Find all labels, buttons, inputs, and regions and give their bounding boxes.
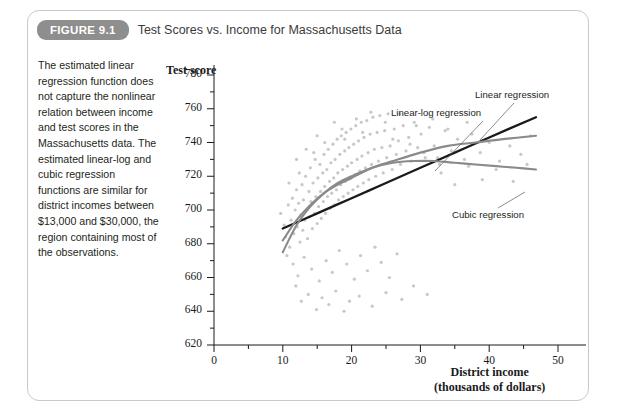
data-point — [410, 159, 413, 162]
leader-line-linear-log-regression — [435, 121, 483, 171]
data-point — [279, 212, 282, 215]
data-point — [400, 298, 403, 301]
data-point — [349, 176, 352, 179]
data-point — [343, 149, 346, 152]
data-point — [344, 180, 347, 183]
data-point — [303, 219, 306, 222]
data-point — [331, 143, 334, 146]
data-point — [498, 159, 501, 162]
data-point — [389, 144, 392, 147]
data-point — [384, 291, 387, 294]
data-point — [408, 143, 411, 146]
data-point — [333, 158, 336, 161]
data-point — [294, 208, 297, 211]
figure-frame: FIGURE 9.1 Test Scores vs. Income for Ma… — [27, 10, 589, 401]
data-point — [314, 195, 317, 198]
data-point — [300, 300, 303, 303]
data-point — [393, 127, 396, 130]
data-point — [426, 293, 429, 296]
data-point — [283, 224, 286, 227]
data-point — [422, 151, 425, 154]
data-point — [284, 235, 287, 238]
x-tick-label: 0 — [194, 354, 234, 366]
data-point — [370, 163, 373, 166]
y-tick-label: 620 — [162, 337, 202, 349]
data-point — [330, 192, 333, 195]
data-point — [361, 131, 364, 134]
data-point — [391, 138, 394, 141]
data-point — [373, 246, 376, 249]
data-point — [312, 151, 315, 154]
leader-line-linear-regression — [480, 103, 514, 140]
curve-linear-log-regression — [283, 136, 536, 241]
data-point — [519, 153, 522, 156]
data-point — [340, 127, 343, 130]
data-point — [351, 188, 354, 191]
data-point — [380, 261, 383, 264]
data-point — [287, 181, 290, 184]
x-axis-title: District income (thousands of dollars) — [434, 365, 545, 395]
data-point — [336, 171, 339, 174]
data-point — [311, 181, 314, 184]
data-point — [285, 254, 288, 257]
data-point — [446, 127, 449, 130]
y-tick-label: 720 — [162, 168, 202, 180]
data-point — [386, 112, 389, 115]
annotation-linear-log-regression: Linear-log regression — [391, 107, 481, 118]
data-point — [327, 148, 330, 151]
data-point — [439, 171, 442, 174]
data-point — [374, 175, 377, 178]
data-point — [395, 153, 398, 156]
data-point — [494, 168, 497, 171]
data-point — [340, 134, 343, 137]
data-point — [319, 190, 322, 193]
data-point — [295, 158, 298, 161]
data-point — [321, 171, 324, 174]
data-point — [333, 121, 336, 124]
data-point — [358, 170, 361, 173]
data-point — [337, 198, 340, 201]
data-point — [470, 132, 473, 135]
data-point — [333, 203, 336, 206]
data-point — [349, 127, 352, 130]
data-point — [391, 168, 394, 171]
data-point — [316, 134, 319, 137]
data-point — [299, 213, 302, 216]
x-axis-title-main: District income — [434, 365, 545, 380]
data-point — [444, 129, 447, 132]
data-point — [382, 171, 385, 174]
figure-caption: The estimated linear regression function… — [38, 58, 160, 261]
data-point — [367, 151, 370, 154]
data-point — [320, 217, 323, 220]
data-point — [294, 284, 297, 287]
data-point — [364, 166, 367, 169]
data-point — [322, 153, 325, 156]
data-point — [347, 192, 350, 195]
data-point — [348, 300, 351, 303]
data-point — [303, 256, 306, 259]
data-point — [323, 185, 326, 188]
data-point — [296, 225, 299, 228]
data-point — [318, 163, 321, 166]
data-point — [358, 294, 361, 297]
data-point — [306, 237, 309, 240]
data-point — [488, 141, 491, 144]
data-point — [338, 249, 341, 252]
annotation-linear-regression: Linear regression — [475, 89, 549, 100]
data-point — [453, 183, 456, 186]
data-point — [332, 176, 335, 179]
data-point — [308, 215, 311, 218]
data-point — [325, 168, 328, 171]
data-point — [369, 111, 372, 114]
data-point — [359, 254, 362, 257]
data-point — [436, 156, 439, 159]
data-point — [304, 175, 307, 178]
data-point — [287, 203, 290, 206]
data-point — [360, 154, 363, 157]
data-point — [298, 171, 301, 174]
data-point — [362, 181, 365, 184]
data-point — [318, 279, 321, 282]
data-point — [322, 200, 325, 203]
data-point — [378, 114, 381, 117]
data-point — [355, 117, 358, 120]
